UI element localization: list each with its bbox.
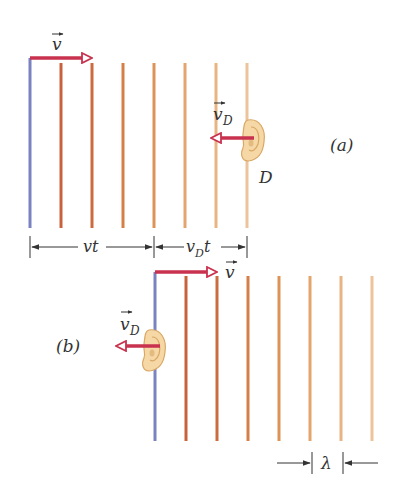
svg-text:v: v: [225, 262, 235, 282]
ear-detector-icon: [242, 120, 265, 161]
panel-a: v v D D (a) vt v D: [30, 34, 353, 260]
svg-text:t: t: [204, 237, 211, 256]
dimension-vt: vt: [30, 236, 154, 258]
svg-text:D: D: [222, 114, 233, 128]
panel-b: v v D (b) λ: [56, 262, 378, 474]
wavelength-marker: λ: [277, 452, 378, 474]
svg-text:v: v: [120, 314, 130, 334]
svg-text:λ: λ: [320, 453, 332, 473]
ear-detector-icon: [143, 330, 166, 371]
wave-velocity-label: v: [52, 34, 63, 54]
wavefronts-a: [30, 58, 247, 228]
svg-text:D: D: [129, 324, 140, 338]
detector-velocity-label-b: v D: [120, 312, 140, 338]
doppler-diagram: v v D D (a) vt v D: [0, 0, 408, 497]
svg-text:v: v: [213, 104, 223, 124]
svg-text:v: v: [186, 237, 195, 256]
svg-text:D: D: [194, 247, 204, 260]
svg-text:v: v: [52, 34, 62, 54]
wavefronts-b: [155, 272, 372, 441]
dimension-vDt: v D t: [156, 236, 247, 260]
detector-label: D: [258, 167, 273, 187]
panel-a-label: (a): [330, 135, 353, 155]
panel-b-label: (b): [56, 336, 80, 356]
svg-text:vt: vt: [83, 237, 99, 256]
wave-velocity-label-b: v: [225, 262, 237, 282]
